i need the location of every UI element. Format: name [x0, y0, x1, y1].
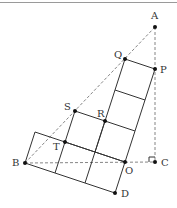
point-R	[103, 119, 107, 123]
point-S	[73, 109, 77, 113]
label-Q: Q	[114, 49, 122, 60]
triangle-dashed-lines	[25, 27, 155, 163]
label-T: T	[53, 141, 60, 152]
labels: A P Q S R T B O C D	[12, 10, 169, 199]
point-O	[123, 160, 127, 164]
label-P: P	[160, 64, 167, 75]
square-grid	[25, 59, 155, 193]
label-S: S	[64, 101, 71, 112]
grid-line	[85, 152, 95, 183]
label-D: D	[121, 188, 129, 199]
label-R: R	[97, 108, 105, 119]
grid-line	[115, 90, 145, 100]
point-C	[153, 160, 157, 164]
geometry-diagram: A P Q S R T B O C D	[0, 0, 177, 208]
label-B: B	[12, 157, 19, 168]
point-P	[153, 67, 157, 71]
point-Q	[123, 57, 127, 61]
point-A	[153, 25, 157, 29]
label-A: A	[150, 10, 159, 21]
label-C: C	[161, 157, 169, 168]
line-BC	[25, 162, 155, 163]
point-T	[63, 140, 67, 144]
grid-line	[105, 121, 135, 131]
point-B	[23, 161, 27, 165]
point-D	[113, 191, 117, 195]
line-BA	[25, 27, 155, 163]
label-O: O	[125, 165, 133, 176]
